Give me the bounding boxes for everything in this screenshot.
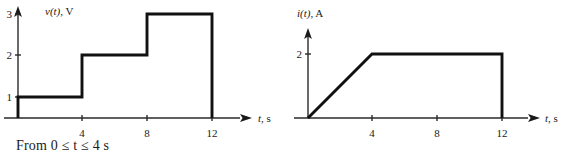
voltage-ytick-label-2: 2	[7, 49, 13, 61]
current-xtick-label-4: 4	[369, 127, 375, 139]
voltage-x-axis-title-unit: , s	[261, 112, 271, 124]
current-y-axis-title: i(t), A	[297, 7, 323, 20]
current-ytick-label-2: 2	[297, 48, 303, 60]
voltage-y-axis-title: v(t), V	[45, 5, 74, 18]
current-x-axis-arrow-icon	[528, 114, 540, 122]
current-y-axis-title-var: i(t)	[297, 7, 311, 20]
current-chart: 4 8 12 2 i(t), A t, s	[294, 7, 558, 139]
figure-caption: From 0 ≤ t ≤ 4 s	[16, 138, 109, 154]
current-y-axis-title-unit: , A	[310, 7, 323, 19]
current-waveform-trace	[308, 54, 502, 118]
voltage-xtick-label-12: 12	[207, 127, 218, 139]
current-x-axis-title-unit: , s	[548, 112, 558, 124]
voltage-x-axis-title: t, s	[258, 112, 271, 124]
current-xtick-label-12: 12	[497, 127, 508, 139]
voltage-xtick-label-8: 8	[144, 127, 150, 139]
voltage-chart: 4 8 12 1 2 3 v(t), V t, s	[4, 5, 271, 139]
current-x-axis-title: t, s	[545, 112, 558, 124]
current-xtick-label-8: 8	[434, 127, 440, 139]
voltage-x-axis-arrow-icon	[240, 114, 252, 122]
voltage-y-axis-title-unit: , V	[60, 5, 73, 17]
voltage-ytick-label-1: 1	[7, 91, 13, 103]
voltage-y-axis-title-var: v(t)	[45, 5, 61, 18]
voltage-waveform-trace	[18, 14, 212, 118]
voltage-ytick-label-3: 3	[7, 8, 13, 20]
figure-container: 4 8 12 1 2 3 v(t), V t, s	[0, 0, 561, 162]
